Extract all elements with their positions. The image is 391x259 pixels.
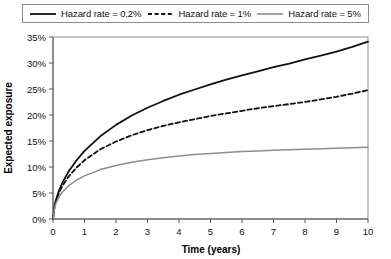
chart-plot-area: 0%5%10%15%20%25%30%35% 012345678910 Expe… — [0, 0, 391, 259]
y-tick-label: 20% — [27, 110, 47, 121]
x-tick-label: 10 — [363, 226, 374, 237]
x-tick-label: 5 — [208, 226, 213, 237]
series-line-2 — [53, 147, 368, 219]
y-tick-label: 35% — [27, 32, 47, 43]
x-tick-label: 1 — [82, 226, 87, 237]
x-tick-label: 2 — [113, 226, 118, 237]
series-line-1 — [53, 90, 368, 219]
y-tick-label: 10% — [27, 162, 47, 173]
data-series-group — [53, 42, 368, 219]
x-tick-label: 3 — [145, 226, 150, 237]
y-tick-label: 5% — [32, 188, 46, 199]
plot-frame — [53, 37, 368, 219]
x-axis-title: Time (years) — [182, 244, 241, 255]
x-tick-label: 8 — [302, 226, 307, 237]
y-axis-ticks: 0%5%10%15%20%25%30%35% — [27, 32, 53, 225]
x-tick-label: 4 — [176, 226, 181, 237]
y-tick-label: 0% — [32, 214, 46, 225]
x-axis-ticks: 012345678910 — [50, 219, 373, 237]
x-tick-label: 6 — [239, 226, 244, 237]
x-tick-label: 9 — [334, 226, 339, 237]
x-tick-label: 7 — [271, 226, 276, 237]
y-tick-label: 15% — [27, 136, 47, 147]
series-line-0 — [53, 42, 368, 219]
chart-figure: Hazard rate = 0.2% Hazard rate = 1% Haza… — [0, 0, 391, 259]
y-axis-title: Expected exposure — [3, 82, 14, 174]
x-tick-label: 0 — [50, 226, 55, 237]
y-tick-label: 30% — [27, 58, 47, 69]
y-tick-label: 25% — [27, 84, 47, 95]
